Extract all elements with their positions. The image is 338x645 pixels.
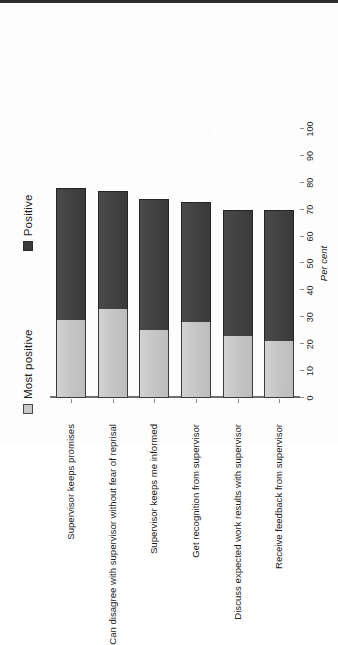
axis-tick (300, 155, 304, 156)
category-tick (279, 399, 280, 403)
axis-tick-label: 0 (305, 395, 315, 400)
bar-row (223, 210, 253, 398)
category-tick (196, 399, 197, 403)
axis-tick (300, 209, 304, 210)
axis-tick-label: 90 (305, 151, 315, 161)
legend-label-most-positive: Most positive (22, 329, 34, 399)
axis-tick (300, 128, 304, 129)
category-label: Supervisor keeps me informed (149, 424, 159, 554)
bar-segment-most-positive (181, 322, 211, 398)
category-tick (71, 399, 72, 403)
category-label: Receive feedback from supervisor (274, 424, 284, 569)
bar-segment-most-positive (98, 309, 128, 398)
bar-segment-most-positive (264, 341, 294, 398)
bar-segment-positive (98, 191, 128, 309)
legend-item-positive: Positive (22, 194, 34, 251)
axis-tick-label: 10 (305, 366, 315, 376)
legend-label-positive: Positive (22, 194, 34, 236)
axis-tick (300, 236, 304, 237)
axis-tick (300, 343, 304, 344)
bar-segment-most-positive (139, 330, 169, 398)
axis-tick-label: 60 (305, 232, 315, 242)
axis-tick (300, 370, 304, 371)
category-tick (154, 399, 155, 403)
bar-row (98, 191, 128, 398)
bar-segment-most-positive (223, 336, 253, 398)
axis-tick (300, 182, 304, 183)
axis-tick (300, 316, 304, 317)
axis-tick (300, 289, 304, 290)
axis-tick-label: 30 (305, 312, 315, 322)
bar-segment-positive (56, 188, 86, 320)
light-square-swatch-icon (23, 404, 33, 414)
bar-segment-positive (181, 202, 211, 323)
category-tick (238, 399, 239, 403)
bar-segment-most-positive (56, 320, 86, 398)
dark-square-swatch-icon (23, 241, 33, 251)
bar-segment-positive (264, 210, 294, 341)
bar-group: Supervisor keeps promisesCan disagree wi… (50, 129, 300, 398)
axis-tick-label: 80 (305, 178, 315, 188)
bar-row (181, 202, 211, 398)
axis-tick-label: 100 (305, 121, 315, 136)
bar-segment-positive (139, 199, 169, 330)
axis-tick (300, 397, 304, 398)
legend-item-most-positive: Most positive (22, 329, 34, 414)
category-label: Get recognition from supervisor (191, 424, 201, 558)
category-label: Discuss expected work results with super… (233, 424, 243, 620)
bar-row (139, 199, 169, 398)
category-label: Can disagree with supervisor without fea… (108, 424, 118, 645)
bar-segment-positive (223, 210, 253, 336)
category-label: Supervisor keeps promises (66, 424, 76, 540)
axis-title-per-cent: Per cent (318, 246, 329, 281)
axis-tick-label: 50 (305, 258, 315, 268)
axis-tick-label: 40 (305, 285, 315, 295)
axis-tick (300, 263, 304, 264)
category-tick (113, 399, 114, 403)
chart-legend: Most positive Positive (22, 194, 34, 414)
axis-tick-label: 20 (305, 339, 315, 349)
axis-tick-label: 70 (305, 205, 315, 215)
bar-row (264, 210, 294, 398)
bar-row (56, 188, 86, 398)
plot-area: 0102030405060708090100 Per cent Supervis… (50, 129, 300, 398)
